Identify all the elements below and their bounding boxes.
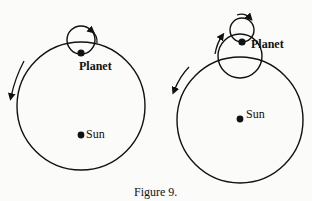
left-diagram: Planet Sun xyxy=(11,26,145,170)
figure-caption: Figure 9. xyxy=(134,185,177,199)
left-planet-dot xyxy=(77,49,84,56)
right-planet-label: Planet xyxy=(251,37,284,51)
figure-canvas: Planet Sun Planet Sun Figure 9. xyxy=(0,0,312,201)
left-sun-label: Sun xyxy=(86,127,105,141)
right-sun-dot xyxy=(237,116,244,123)
right-diagram: Planet Sun xyxy=(174,14,303,183)
left-planet-label: Planet xyxy=(79,59,112,73)
left-sun-dot xyxy=(78,132,85,139)
right-planet-dot xyxy=(238,38,245,45)
right-sun-label: Sun xyxy=(246,107,265,121)
left-deferent-arrow-icon xyxy=(11,61,24,97)
